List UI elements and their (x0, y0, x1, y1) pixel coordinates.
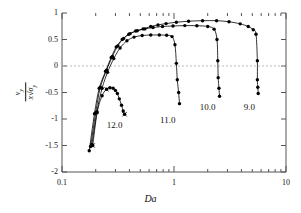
x-tick-label: 1 (159, 178, 189, 187)
data-point-marker (173, 43, 176, 46)
data-point-marker (149, 33, 152, 36)
y-tick-label: 0 (40, 61, 58, 70)
data-point-marker (239, 22, 242, 25)
data-point-marker (112, 57, 115, 60)
data-point-marker (122, 37, 125, 40)
series-label-11.0: 11.0 (156, 115, 180, 125)
data-point-marker (183, 24, 186, 27)
y-tick-label: -1 (40, 114, 58, 123)
data-point-marker (201, 19, 204, 22)
series-label-9.0: 9.0 (237, 102, 261, 112)
data-point-marker (217, 87, 220, 90)
x-axis-label: Da (0, 193, 301, 204)
data-point-marker (132, 35, 135, 38)
data-point-marker (158, 33, 161, 36)
data-point-marker (140, 34, 143, 37)
data-point-marker (125, 39, 128, 42)
data-point-marker (177, 91, 180, 94)
data-point-marker (218, 95, 221, 98)
data-point-marker (88, 149, 91, 152)
data-point-marker (247, 25, 250, 28)
data-point-marker (100, 87, 103, 90)
data-point-marker (256, 86, 259, 89)
y-tick-label: -2 (40, 167, 58, 176)
data-point-marker (170, 35, 173, 38)
y-tick-label: -0.5 (40, 88, 58, 97)
data-point-marker (216, 59, 219, 62)
data-point-marker (156, 23, 159, 26)
data-point-marker (100, 94, 103, 97)
data-point-marker (175, 62, 178, 65)
data-point-marker (195, 24, 198, 27)
data-point-marker (151, 26, 154, 29)
data-point-marker (215, 38, 218, 41)
data-point-marker (212, 27, 215, 30)
y-tick-label: -1.5 (40, 141, 58, 150)
data-point-marker (254, 33, 257, 36)
y-tick-label: 0.5 (40, 35, 58, 44)
data-point-marker (165, 34, 168, 37)
series-label-10.0: 10.0 (196, 102, 220, 112)
data-point-marker (206, 25, 209, 28)
data-point-marker (227, 20, 230, 23)
data-point-marker (128, 32, 131, 35)
data-point-marker (215, 19, 218, 22)
data-point-marker (176, 78, 179, 81)
x-tick-label: 0.1 (47, 178, 77, 187)
y-axis-label-numerator: vy (14, 87, 25, 97)
data-point-marker (118, 97, 121, 100)
data-point-marker (187, 20, 190, 23)
series-label-12.0: 12.0 (103, 120, 127, 130)
data-point-marker (257, 92, 260, 95)
y-tick-label: 1 (40, 8, 58, 17)
data-point-marker (216, 76, 219, 79)
data-point-marker (136, 29, 139, 32)
data-point-marker (256, 59, 259, 62)
x-tick-label: 10 (271, 178, 301, 187)
data-point-marker (116, 92, 119, 95)
data-point-marker (161, 25, 164, 28)
data-point-marker (256, 78, 259, 81)
data-point-marker (164, 22, 167, 25)
data-point-marker (118, 46, 121, 49)
data-point-marker (95, 111, 98, 114)
data-point-marker (171, 24, 174, 27)
data-point-marker (120, 104, 123, 107)
data-point-marker (122, 109, 125, 112)
data-point-marker (175, 21, 178, 24)
data-point-marker (178, 102, 181, 105)
data-point-marker (252, 28, 255, 31)
data-point-marker (108, 86, 111, 89)
y-axis-label-denominator: x√σy (25, 83, 36, 102)
data-point-marker (106, 71, 109, 74)
data-point-marker (114, 89, 117, 92)
data-point-marker (143, 27, 146, 30)
